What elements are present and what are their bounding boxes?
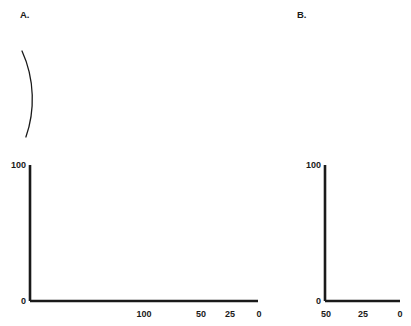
y-axis-label-top: 100: [11, 160, 26, 170]
x-axis-label-50: 50: [196, 309, 206, 319]
x-axis-label-0: 0: [397, 309, 402, 319]
panel-a: A. 100 80 60 40: [0, 0, 262, 319]
panel-a-chart: 100 0 100 50 25 0: [11, 160, 262, 319]
x-axis-label-50: 50: [321, 309, 331, 319]
panel-a-arc-group: 100 80 60 40 20: [0, 0, 32, 137]
y-axis-label-top: 100: [306, 160, 321, 170]
x-axis-label-25: 25: [225, 309, 235, 319]
panel-b-chart: 100 0 50 25 0: [306, 160, 403, 319]
figure-canvas: A. 100 80 60 40: [0, 0, 411, 326]
arc-item: 100: [0, 0, 32, 137]
panel-b-arc-group: 100 80 60 40 20: [0, 0, 14, 2]
arc-curve: [22, 51, 32, 137]
panel-b-letter: B.: [297, 9, 307, 20]
y-axis-label-bottom: 0: [21, 296, 26, 306]
x-axis-label-100: 100: [136, 309, 151, 319]
arc-label: 0: [0, 0, 5, 2]
arc-item: 0: [0, 0, 5, 2]
panel-a-letter: A.: [20, 9, 30, 20]
panel-b: B. 100 80 60 40: [0, 0, 403, 319]
y-axis-label-bottom: 0: [316, 296, 321, 306]
figure-root: A. 100 80 60 40: [0, 0, 411, 326]
x-axis-label-0: 0: [256, 309, 261, 319]
x-axis-label-25: 25: [358, 309, 368, 319]
